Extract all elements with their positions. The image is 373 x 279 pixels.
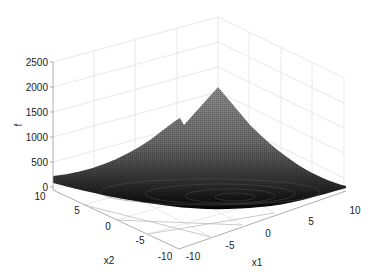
x1-tick-neg10: -10 [186, 251, 201, 262]
z-axis-label: f [13, 123, 24, 126]
z-tick-1000: 1000 [26, 132, 49, 143]
x2-tick-5: 5 [74, 205, 80, 216]
x1-tick-5: 5 [308, 216, 314, 227]
x2-tick-neg5: -5 [136, 235, 145, 246]
z-tick-2000: 2000 [26, 82, 49, 93]
x2-tick-0: 0 [105, 221, 111, 232]
surface [53, 87, 346, 209]
x1-tick-neg5: -5 [226, 240, 235, 251]
x2-axis-label: x2 [104, 255, 115, 266]
surface-plot-figure: 2500 2000 1500 1000 500 0 f 10 5 0 -5 -1… [0, 0, 373, 279]
x2-tick-10: 10 [34, 191, 46, 202]
x1-tick-10: 10 [349, 205, 361, 216]
z-tick-1500: 1500 [26, 107, 49, 118]
x1-axis-label: x1 [252, 257, 263, 268]
x2-tick-neg10: -10 [158, 251, 173, 262]
z-axis: 2500 2000 1500 1000 500 0 f [13, 57, 53, 193]
x1-tick-0: 0 [265, 228, 271, 239]
z-tick-2500: 2500 [26, 57, 49, 68]
z-tick-500: 500 [31, 157, 48, 168]
x1-axis: -10 -5 0 5 10 x1 [186, 205, 361, 268]
